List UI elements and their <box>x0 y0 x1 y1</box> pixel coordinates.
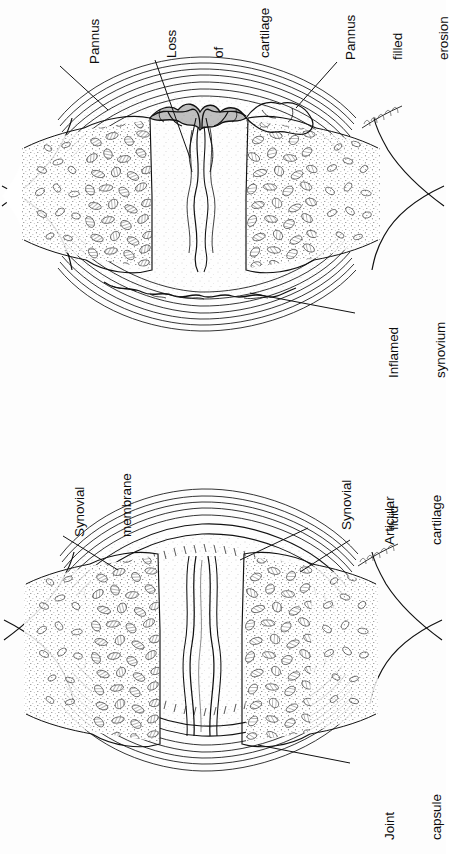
label-loss-line2: of <box>211 8 227 58</box>
trabecular-bone-lower-right <box>238 548 318 748</box>
label-loss-of-cartilage: Loss of cartilage <box>133 8 304 58</box>
label-inflamed-line2: synovium <box>433 322 449 378</box>
trabecular-bone-lower-left <box>86 548 166 748</box>
label-erosion-line3: erosion <box>436 15 452 60</box>
trabecular-bone-upper-left <box>80 112 160 274</box>
label-inflamed-line1: Inflamed <box>386 322 402 378</box>
label-loss-line1: Loss <box>164 8 180 58</box>
label-synmem-line1: Synovial <box>72 473 88 537</box>
label-erosion-line2: filled <box>390 15 406 60</box>
label-articular-cartilage: Articular cartilage <box>351 495 453 545</box>
label-pannus: Pannus <box>56 19 134 64</box>
label-artcart-line1: Articular <box>382 495 398 545</box>
label-pannus-line1: Pannus <box>87 19 103 64</box>
label-joint-capsule: Joint capsule <box>351 794 453 840</box>
label-pannus-filled-erosion: Pannus filled erosion <box>312 15 453 60</box>
label-synmem-line2: membrane <box>119 473 135 537</box>
label-loss-line3: cartilage <box>257 8 273 58</box>
label-jointcap-line1: Joint <box>382 794 398 840</box>
label-inflamed-synovium: Inflamed synovium <box>355 322 453 378</box>
trabecular-bone-upper-right <box>240 112 324 274</box>
label-jointcap-line2: capsule <box>429 794 445 840</box>
label-artcart-line2: cartilage <box>429 495 445 545</box>
label-erosion-line1: Pannus <box>343 15 359 60</box>
label-synovial-membrane: Synovial membrane <box>41 473 165 537</box>
